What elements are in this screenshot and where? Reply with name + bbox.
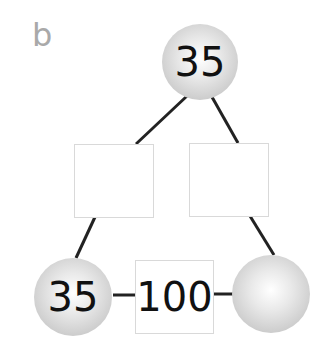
bottom-right-empty-circle[interactable]: [232, 255, 310, 333]
left-empty-box[interactable]: [74, 144, 154, 218]
right-empty-box[interactable]: [189, 143, 269, 217]
top-circle: 35: [162, 24, 238, 100]
bottom-middle-box: 100: [135, 260, 214, 334]
bottom-left-circle: 35: [34, 258, 112, 336]
